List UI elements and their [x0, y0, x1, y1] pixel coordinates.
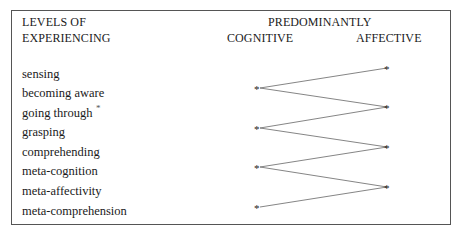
marker-going-through: *	[384, 101, 390, 115]
marker-grasping: *	[254, 122, 260, 136]
marker-meta-affectivity: *	[384, 181, 390, 195]
marker-comprehending: *	[384, 141, 390, 155]
marker-sensing: *	[384, 62, 390, 76]
marker-becoming-aware: *	[254, 82, 260, 96]
zigzag-connector-lines	[0, 0, 462, 234]
marker-meta-cognition: *	[254, 161, 260, 175]
marker-meta-comprehension: *	[254, 201, 260, 215]
